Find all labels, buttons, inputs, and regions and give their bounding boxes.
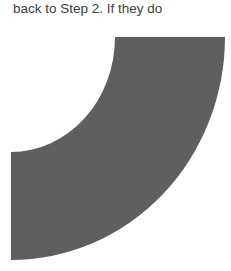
quarter-ring-figure: [0, 0, 231, 271]
quarter-ring-shape: [11, 37, 225, 260]
